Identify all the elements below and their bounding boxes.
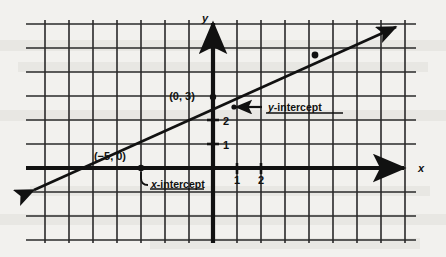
- y-tick-label-1: 1: [223, 139, 229, 151]
- x-intercept-label-rest: -intercept: [157, 178, 205, 190]
- x-intercept-leader-curve: [141, 172, 148, 185]
- x-tick-label-2: 2: [258, 174, 264, 186]
- x-intercept-label: x-intercept: [150, 178, 205, 190]
- graph-figure: (0, 3) (−5, 0) 1 2 1 2 x y y-intercept x…: [0, 0, 446, 257]
- point-marker-x-intercept: [138, 165, 144, 171]
- y-intercept-label-rest: -intercept: [274, 101, 322, 113]
- point-marker-on-line: [312, 52, 319, 59]
- point-label-y-intercept: (0, 3): [169, 90, 195, 102]
- x-axis-label: x: [417, 162, 425, 174]
- y-tick-label-2: 2: [223, 115, 229, 127]
- y-axis-label: y: [201, 12, 209, 24]
- axes: [26, 23, 404, 243]
- y-intercept-leader-dot: [231, 104, 236, 109]
- point-marker-y-intercept: [210, 94, 216, 100]
- graph-canvas: (0, 3) (−5, 0) 1 2 1 2 x y y-intercept x…: [0, 0, 446, 257]
- grid: [26, 20, 416, 243]
- point-label-x-intercept: (−5, 0): [94, 150, 126, 162]
- x-tick-label-1: 1: [234, 174, 240, 186]
- y-intercept-label: y-intercept: [267, 101, 322, 113]
